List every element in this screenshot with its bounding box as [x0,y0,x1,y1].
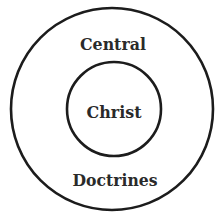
outer-label-top: Central [80,34,146,54]
outer-label-bottom: Doctrines [73,170,158,190]
inner-label: Christ [87,102,142,122]
concentric-diagram: Central Christ Doctrines [0,0,220,218]
